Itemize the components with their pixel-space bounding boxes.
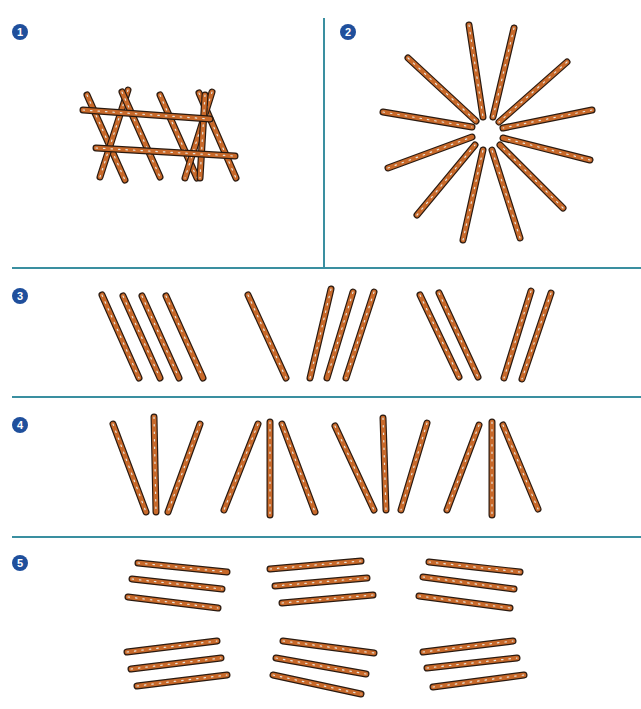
panel-3-leaning-groups: [102, 289, 551, 379]
pretzel-sticks-drawing: [0, 0, 641, 709]
pretzel-stick: [154, 417, 156, 512]
panel-5-horizontal-stacks: [127, 561, 524, 694]
panel-2-star: [383, 25, 592, 240]
pretzel-arrangements-diagram: 1 2 3 4 5: [0, 0, 641, 709]
panel-4-fanned-groups: [113, 417, 538, 515]
panel-1-fence: [83, 90, 236, 180]
pretzel-stick: [168, 424, 200, 512]
